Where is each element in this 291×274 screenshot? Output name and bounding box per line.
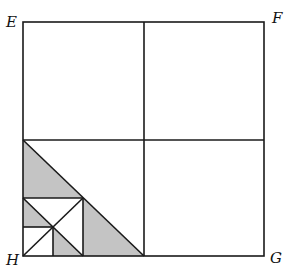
label-F: F: [271, 9, 283, 27]
lines: [23, 22, 264, 256]
label-E: E: [5, 13, 17, 31]
square-diagram: E F G H: [0, 0, 291, 274]
label-G: G: [270, 249, 282, 267]
label-H: H: [5, 251, 20, 269]
